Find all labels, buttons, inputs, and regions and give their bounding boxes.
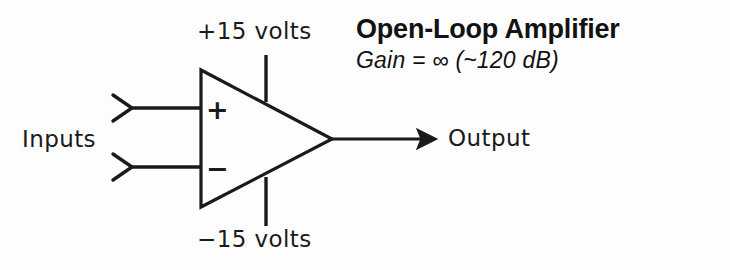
input-chevron-noninverting-icon [113,95,132,121]
output-label: Output [448,127,530,150]
supply-negative-label: −15 volts [197,228,312,251]
op-amp-diagram: + − +15 volts −15 volts Inputs Output Op… [0,0,730,270]
title-block: Open-Loop Amplifier Gain = ∞ (~120 dB) [356,16,620,72]
inverting-input-sign: − [206,155,229,182]
supply-positive-label: +15 volts [197,20,312,43]
amplifier-gain-note: Gain = ∞ (~120 dB) [356,49,620,72]
amplifier-title: Open-Loop Amplifier [356,16,620,44]
noninverting-input-sign: + [206,96,229,123]
input-chevron-inverting-icon [113,154,132,180]
inputs-label: Inputs [22,128,96,151]
